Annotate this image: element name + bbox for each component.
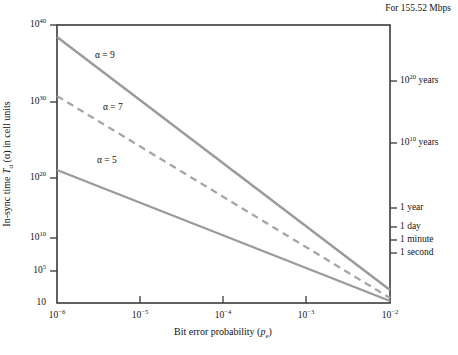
figure-container: For 155.52 Mbps 1040 1030 1020 1010 105 … — [0, 0, 458, 355]
y-tick-exponent: 20 — [39, 170, 46, 177]
x-tick-label-1e-4: 10−4 — [215, 311, 232, 321]
y-right-tick-label-1-year: 1 year — [400, 203, 423, 213]
y-right-tick-label-1e10-years: 1010 years — [400, 138, 439, 148]
x-tick-label-1e-3: 10−3 — [298, 311, 315, 321]
y-tick-label-10: 10 — [4, 298, 46, 308]
y-axis-right-ticks — [390, 81, 397, 253]
y-tick-exponent: 10 — [39, 230, 46, 237]
series-annotation-alpha-7: α = 7 — [103, 103, 123, 113]
y-tick-label-1e40: 1040 — [4, 20, 46, 30]
x-tick-exponent: −4 — [224, 308, 231, 315]
x-axis-title: Bit error probability (pe) — [174, 327, 272, 337]
x-tick-exponent: −5 — [141, 308, 148, 315]
x-tick-label-1e-2: 10−2 — [382, 311, 399, 321]
y-right-tick-label-1-minute: 1 minute — [400, 235, 434, 245]
y-right-tick-suffix: years — [416, 75, 438, 85]
x-tick-label-1e-5: 10−5 — [132, 311, 149, 321]
x-axis-ticks — [140, 296, 306, 303]
series-line-alpha-7 — [57, 96, 390, 298]
y-right-tick-suffix: second — [405, 247, 434, 257]
x-tick-exponent: −2 — [391, 308, 398, 315]
y-right-tick-suffix: day — [405, 221, 421, 231]
chart-note: For 155.52 Mbps — [385, 4, 451, 14]
y-right-tick-suffix: years — [416, 137, 438, 147]
y-tick-exponent: 40 — [39, 17, 46, 24]
y-right-tick-label-1e20-years: 1020 years — [400, 76, 439, 86]
series-annotation-alpha-9: α = 9 — [95, 51, 115, 61]
y-right-tick-label-1-day: 1 day — [400, 222, 421, 232]
y-tick-exponent: 30 — [39, 94, 46, 101]
y-tick-exponent: 5 — [43, 263, 46, 270]
series-group — [57, 37, 390, 301]
x-tick-label-1e-6: 10−6 — [49, 311, 66, 321]
series-line-alpha-5 — [57, 170, 390, 301]
x-tick-exponent: −6 — [58, 308, 65, 315]
y-axis-title: In-sync time Td (α) in cell units — [2, 34, 12, 294]
y-axis-left-ticks — [50, 25, 57, 271]
y-right-tick-label-1-second: 1 second — [400, 248, 434, 258]
y-right-tick-suffix: minute — [405, 234, 434, 244]
x-tick-exponent: −3 — [307, 308, 314, 315]
series-annotation-alpha-5: α = 5 — [97, 156, 117, 166]
chart-canvas — [0, 0, 458, 355]
y-right-tick-suffix: year — [405, 202, 424, 212]
